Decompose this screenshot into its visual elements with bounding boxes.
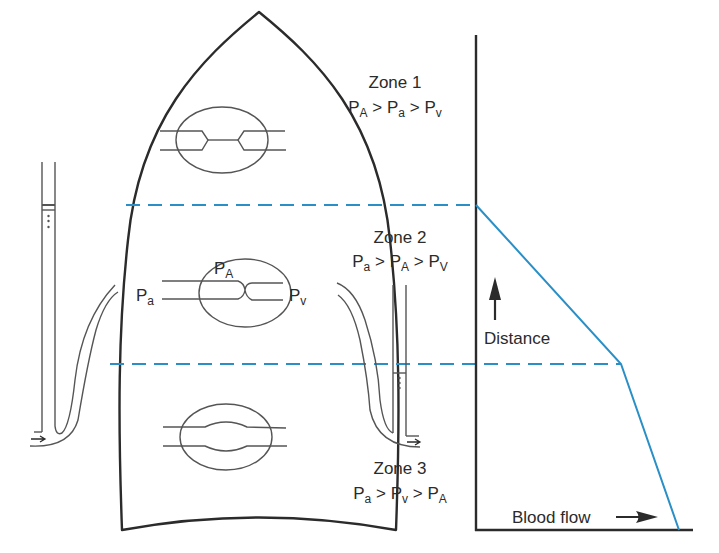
zone-1-capillary (160, 107, 286, 173)
y-axis-label: Distance (484, 329, 550, 348)
zone-1-relation: PA > Pa > Pv (348, 98, 442, 120)
zone-3-capillary (163, 404, 287, 470)
zone-1-title: Zone 1 (369, 73, 422, 92)
zone-2-title: Zone 2 (374, 228, 427, 247)
zone-3-relation: Pa > Pv > PA (353, 484, 447, 506)
zone-3-label: Zone 3 Pa > Pv > PA (353, 459, 447, 506)
west-lung-zones-diagram: Pa PA Pv Zone 1 PA > Pa > Pv Zone 2 Pa >… (0, 0, 719, 553)
blood-flow-arrow-icon (616, 511, 658, 523)
venous-outflow-arrow (407, 439, 420, 445)
distance-arrow-icon (489, 277, 501, 320)
zone-2-relation: Pa > PA > PV (352, 252, 448, 274)
arterial-pressure-label: Pa (136, 286, 154, 308)
blood-flow-profile (476, 205, 679, 530)
lung-outline (120, 12, 399, 530)
arterial-fluid-dots (47, 215, 49, 228)
venous-fluid-dots (398, 377, 400, 389)
zone-3-alveolus (180, 404, 272, 470)
arterial-manometer (30, 162, 118, 446)
zone-2-label: Zone 2 Pa > PA > PV (352, 228, 448, 274)
venous-pressure-label: Pv (289, 286, 306, 308)
zone-3-title: Zone 3 (374, 459, 427, 478)
arterial-inflow-arrow (31, 436, 45, 442)
zone-1-label: Zone 1 PA > Pa > Pv (348, 73, 442, 120)
x-axis-label: Blood flow (512, 508, 591, 527)
alveolar-pressure-label: PA (214, 259, 233, 281)
